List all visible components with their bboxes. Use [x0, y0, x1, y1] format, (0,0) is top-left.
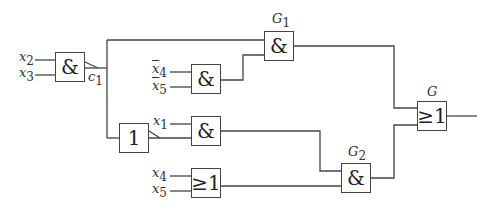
or-gate-x4-x5: ≥1	[191, 168, 221, 198]
label-c1: c1	[88, 70, 103, 87]
and-gate-1: &	[55, 52, 85, 82]
input-x1: x1	[153, 114, 168, 131]
and-gate-x1: &	[191, 116, 221, 146]
and-gate-g1: &	[264, 31, 294, 61]
input-x3: x3	[19, 66, 34, 83]
and-gate-negated-x4-x5: &	[191, 64, 221, 94]
input-x5: x5	[152, 182, 167, 199]
label-g1: G1	[272, 12, 290, 29]
logic-circuit-diagram: & & & 1 & ≥1 & ≥1 G1 G2 G c1 x2 x3 x4 x5…	[0, 0, 496, 210]
or-gate-g: ≥1	[417, 101, 447, 131]
input-not-x4: x4	[152, 62, 167, 79]
input-not-x5: x5	[152, 79, 167, 96]
label-g: G	[427, 85, 437, 98]
not-gate: 1	[119, 123, 149, 153]
label-g2: G2	[348, 145, 366, 162]
and-gate-g2: &	[341, 163, 371, 193]
